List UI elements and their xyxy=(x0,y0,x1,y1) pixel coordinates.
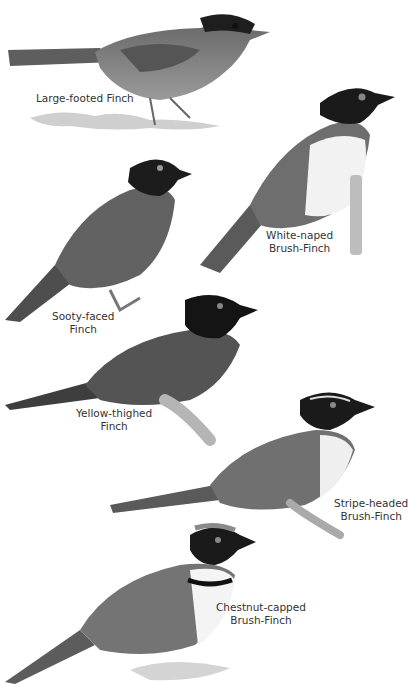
label-line: Chestnut-capped xyxy=(216,601,306,614)
label-line: Brush-Finch xyxy=(216,614,306,627)
label-line: Brush-Finch xyxy=(334,510,408,523)
label-line: Stripe-headed xyxy=(334,497,408,510)
label-white-naped-brush-finch: White-naped Brush-Finch xyxy=(266,229,333,255)
label-line: White-naped xyxy=(266,229,333,242)
label-large-footed-finch: Large-footed Finch xyxy=(36,92,134,105)
label-line: Large-footed Finch xyxy=(36,92,134,105)
label-line: Brush-Finch xyxy=(266,242,333,255)
label-stripe-headed-brush-finch: Stripe-headed Brush-Finch xyxy=(334,497,408,523)
label-chestnut-capped-brush-finch: Chestnut-capped Brush-Finch xyxy=(216,601,306,627)
